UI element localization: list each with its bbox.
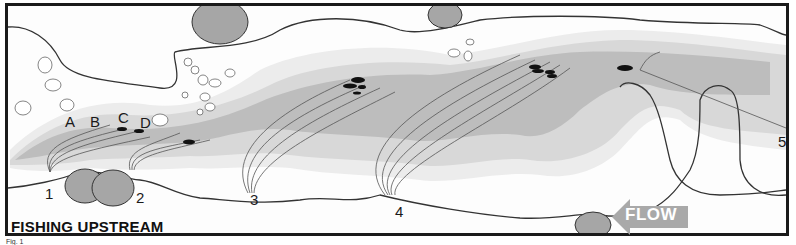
figure-title: FISHING UPSTREAM <box>11 218 163 235</box>
figure-caption: Fig. 1 <box>6 238 24 245</box>
position-label-4: 4 <box>395 204 403 219</box>
position-label-2: 2 <box>136 190 144 205</box>
rock <box>92 170 134 206</box>
rock <box>428 2 462 28</box>
position-label-5: 5 <box>778 134 786 149</box>
rock <box>575 212 611 238</box>
lane-label-a: A <box>65 114 75 129</box>
lane-label-c: C <box>118 110 129 125</box>
rock <box>192 0 248 44</box>
flow-label: FLOW <box>625 205 677 225</box>
position-label-3: 3 <box>250 192 258 207</box>
lane-label-b: B <box>90 114 100 129</box>
position-label-1: 1 <box>45 186 53 201</box>
lane-label-d: D <box>140 115 151 130</box>
